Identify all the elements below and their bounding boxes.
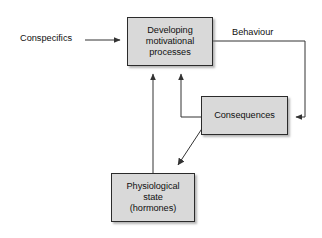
node-consequences[interactable]: Consequences bbox=[201, 96, 288, 135]
node-label-consequences: Consequences bbox=[214, 110, 275, 121]
edge-label-behaviour: Behaviour bbox=[232, 27, 273, 38]
node-label-physiological-state: Physiological state (hormones) bbox=[127, 181, 180, 215]
edge-consequences-to-motivational bbox=[181, 74, 201, 117]
node-label-developing-motivational-processes: Developing motivational processes bbox=[146, 25, 194, 59]
node-physiological-state[interactable]: Physiological state (hormones) bbox=[111, 173, 195, 222]
node-developing-motivational-processes[interactable]: Developing motivational processes bbox=[127, 17, 213, 66]
edge-label-conspecifics: Conspecifics bbox=[20, 33, 72, 44]
diagram-canvas: Developing motivational processes Conseq… bbox=[0, 0, 322, 238]
